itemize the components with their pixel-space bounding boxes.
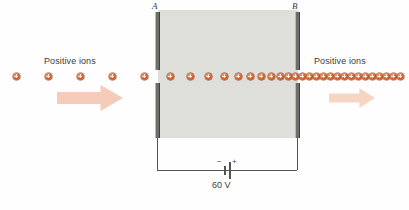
positive-ion: [320, 73, 327, 80]
positive-ion: [334, 73, 341, 80]
positive-ion: [258, 73, 265, 80]
positive-ion: [13, 73, 20, 80]
parallel-plate-accelerator-diagram: AB Positive ions Positive ions −+60 V: [0, 0, 409, 210]
positive-ion: [268, 73, 275, 80]
battery-voltage-label: 60 V: [212, 180, 231, 190]
plate-b-letter-label: B: [292, 1, 298, 11]
left-positive-ions-label: Positive ions: [44, 56, 96, 66]
right-flow-arrow: [329, 88, 375, 112]
plate-a-top-segment: [155, 12, 160, 70]
positive-ion: [187, 73, 194, 80]
positive-ion: [369, 73, 376, 80]
left-wire: [157, 138, 158, 170]
positive-ion: [376, 73, 383, 80]
positive-ion: [362, 73, 369, 80]
positive-ion: [77, 73, 84, 80]
bottom-wire: [157, 170, 297, 171]
right-wire: [297, 138, 298, 170]
positive-ion: [285, 73, 292, 80]
positive-ion: [383, 73, 390, 80]
positive-ion: [327, 73, 334, 80]
positive-ion: [277, 73, 284, 80]
left-flow-arrow: [57, 85, 123, 115]
positive-ion: [355, 73, 362, 80]
positive-ion: [306, 73, 313, 80]
positive-ion: [141, 73, 148, 80]
battery-positive-sign: +: [232, 157, 237, 166]
positive-ion: [292, 73, 299, 80]
positive-ion: [235, 73, 242, 80]
battery-positive-plate: [229, 162, 231, 179]
positive-ion: [45, 73, 52, 80]
right-positive-ions-label: Positive ions: [314, 56, 366, 66]
positive-ion: [299, 73, 306, 80]
positive-ion: [341, 73, 348, 80]
positive-ion: [247, 73, 254, 80]
positive-ion: [167, 73, 174, 80]
positive-ion: [397, 73, 404, 80]
positive-ion: [348, 73, 355, 80]
battery-negative-sign: −: [217, 157, 222, 166]
positive-ion: [109, 73, 116, 80]
battery-negative-plate: [224, 166, 226, 175]
plate-b-top-segment: [295, 12, 300, 70]
positive-ion: [313, 73, 320, 80]
positive-ion: [221, 73, 228, 80]
plate-b-bottom-segment: [295, 83, 300, 138]
positive-ion: [205, 73, 212, 80]
positive-ion: [390, 73, 397, 80]
plate-a-letter-label: A: [152, 1, 158, 11]
plate-a-bottom-segment: [155, 83, 160, 138]
